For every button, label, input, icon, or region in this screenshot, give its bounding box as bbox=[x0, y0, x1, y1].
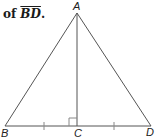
right-angle-mark bbox=[69, 118, 77, 126]
segment-ad bbox=[77, 13, 151, 126]
point-label-a: A bbox=[73, 0, 80, 12]
point-label-d: D bbox=[146, 126, 154, 138]
point-label-c: C bbox=[74, 127, 82, 139]
segment-ab bbox=[5, 13, 77, 126]
point-label-b: B bbox=[1, 127, 8, 139]
triangle-diagram bbox=[0, 0, 157, 139]
